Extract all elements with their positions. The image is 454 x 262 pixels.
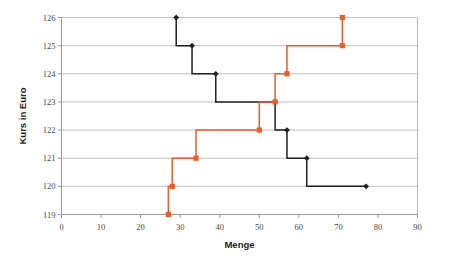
y-tick-label: 120 <box>43 181 56 191</box>
x-tick-label: 90 <box>413 222 422 232</box>
x-tick-label: 30 <box>176 222 185 232</box>
y-tick-label: 121 <box>43 153 56 163</box>
data-point-marker-square <box>257 127 262 132</box>
chart-background <box>0 0 454 262</box>
x-axis-title: Menge <box>224 239 254 250</box>
x-tick-label: 40 <box>215 222 224 232</box>
y-tick-label: 122 <box>43 125 56 135</box>
supply-demand-step-chart: 0102030405060708090 11912012112212312412… <box>0 0 454 262</box>
chart-container: 0102030405060708090 11912012112212312412… <box>0 0 454 262</box>
x-tick-label: 70 <box>334 222 343 232</box>
data-point-marker-square <box>340 43 345 48</box>
data-point-marker-square <box>273 99 278 104</box>
data-point-marker-square <box>166 212 171 217</box>
data-point-marker-square <box>170 184 175 189</box>
y-tick-label: 126 <box>43 13 56 23</box>
x-tick-label: 0 <box>59 222 63 232</box>
y-tick-label: 123 <box>43 97 56 107</box>
y-tick-label: 125 <box>43 41 56 51</box>
data-point-marker-square <box>340 15 345 20</box>
x-tick-label: 50 <box>255 222 264 232</box>
data-point-marker-square <box>193 156 198 161</box>
y-tick-label: 119 <box>43 210 55 220</box>
y-tick-label: 124 <box>43 69 57 79</box>
x-tick-label: 60 <box>295 222 304 232</box>
data-point-marker-square <box>284 71 289 76</box>
x-tick-label: 10 <box>97 222 106 232</box>
y-axis-title: Kurs in Euro <box>17 87 28 144</box>
x-tick-label: 20 <box>136 222 145 232</box>
x-tick-label: 80 <box>374 222 383 232</box>
